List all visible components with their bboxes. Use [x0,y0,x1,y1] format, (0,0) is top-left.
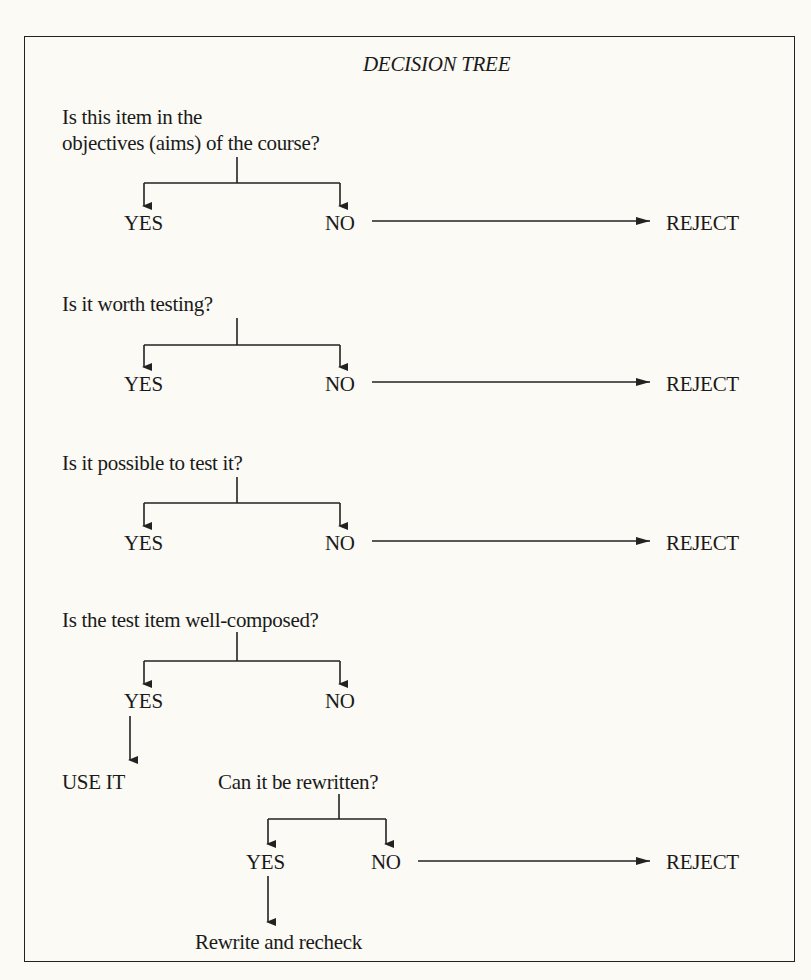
yes-node-5: YES [246,852,285,873]
reject-node-5: REJECT [666,852,739,873]
reject-node-3: REJECT [666,533,739,554]
rewrite-node: Rewrite and recheck [195,932,362,953]
question-4: Is the test item well-composed? [62,610,319,631]
question-5: Can it be rewritten? [218,772,378,793]
use-it-node: USE IT [62,772,125,793]
yes-node-3: YES [124,533,163,554]
no-node-5: NO [371,852,401,873]
question-2: Is it worth testing? [62,294,213,315]
yes-node-4: YES [124,691,163,712]
yes-node-1: YES [124,213,163,234]
question-1-line-1: Is this item in the [62,107,202,128]
diagram-title: DECISION TREE [363,54,510,75]
no-node-1: NO [325,213,355,234]
no-node-2: NO [325,374,355,395]
no-node-4: NO [325,691,355,712]
yes-node-2: YES [124,374,163,395]
question-3: Is it possible to test it? [62,453,243,474]
reject-node-2: REJECT [666,374,739,395]
question-1-line-2: objectives (aims) of the course? [62,133,319,154]
no-node-3: NO [325,533,355,554]
reject-node-1: REJECT [666,213,739,234]
